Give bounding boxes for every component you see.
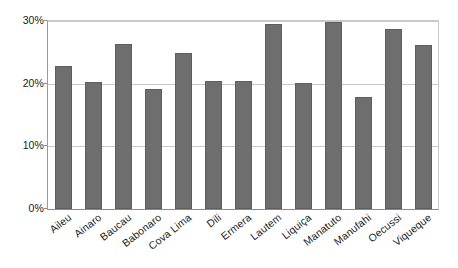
plot-area bbox=[47, 20, 439, 210]
bars-layer bbox=[48, 21, 438, 209]
y-axis: 0%10%20%30% bbox=[0, 20, 44, 208]
bar bbox=[325, 22, 342, 209]
bar-chart: 0%10%20%30% AileuAinaroBaucauBabonaroCov… bbox=[0, 0, 458, 268]
x-axis: AileuAinaroBaucauBabonaroCova LimaDiliEr… bbox=[47, 209, 439, 268]
x-axis-tick-text: Dili bbox=[204, 211, 223, 230]
y-axis-tick-label: 0% bbox=[0, 202, 44, 214]
y-axis-tick-label: 10% bbox=[0, 139, 44, 151]
y-axis-tick-label: 30% bbox=[0, 14, 44, 26]
bar bbox=[385, 29, 402, 209]
bar bbox=[235, 81, 252, 209]
bar bbox=[415, 45, 432, 209]
bar bbox=[85, 82, 102, 209]
bar bbox=[115, 44, 132, 209]
bar bbox=[55, 66, 72, 210]
y-axis-tick-label: 20% bbox=[0, 77, 44, 89]
bar bbox=[265, 24, 282, 209]
x-axis-tick-text: Aileu bbox=[47, 211, 73, 235]
